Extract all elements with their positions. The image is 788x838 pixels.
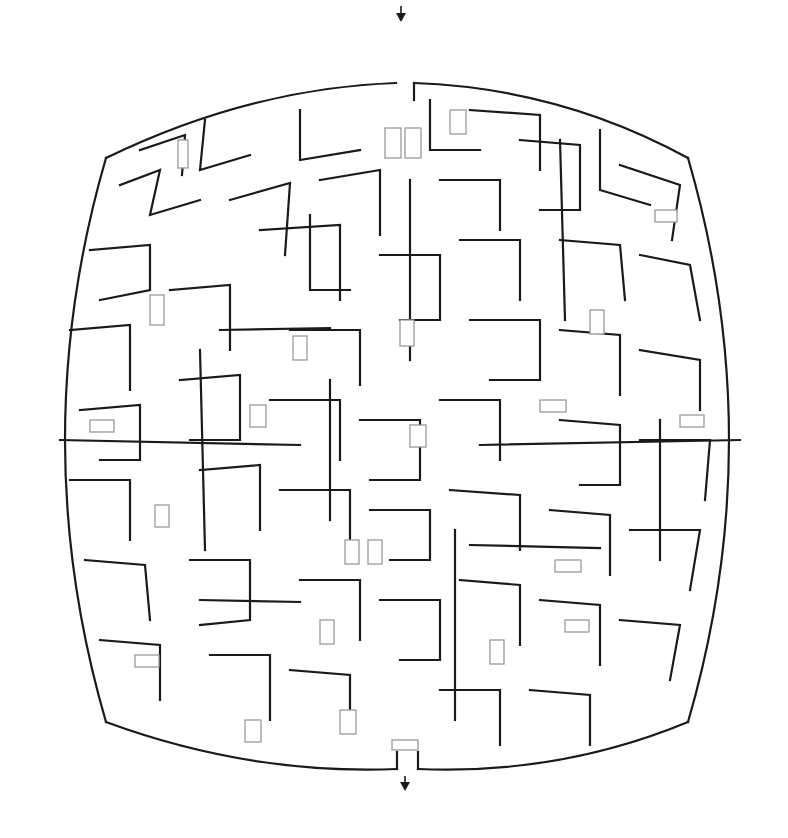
exit-arrow-icon [400, 776, 410, 791]
entrance-arrow-icon [396, 6, 406, 22]
maze-outer-wall [65, 83, 729, 770]
maze-board[interactable] [0, 0, 788, 838]
maze-inner-walls [60, 100, 740, 745]
